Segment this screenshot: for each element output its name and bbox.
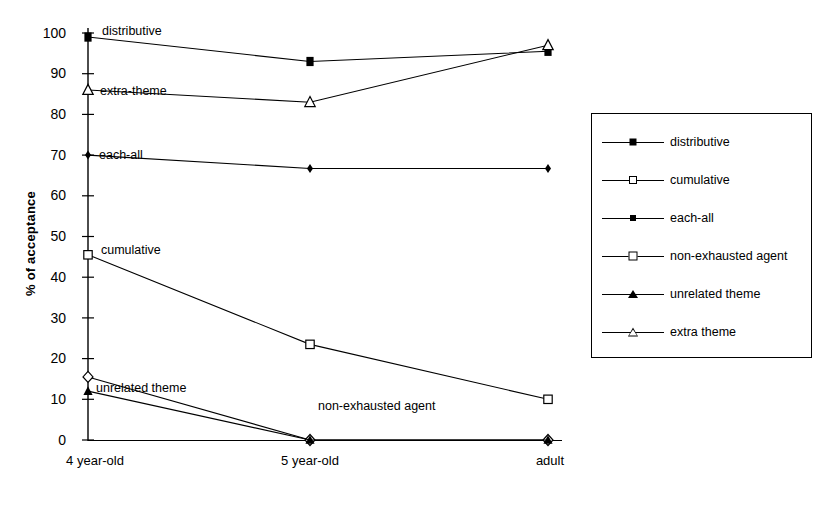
legend-item-extra-theme[interactable]: extra theme: [602, 321, 736, 343]
legend-marker-open-diamond-icon: [602, 248, 664, 264]
data-series-layer: [83, 32, 553, 445]
data-point-marker-open-square: [84, 251, 92, 259]
chart-legend: distributivecumulativeeach-allnon-exhaus…: [591, 113, 812, 358]
data-point-marker-filled-square: [306, 57, 313, 66]
legend-marker-filled-triangle-icon: [602, 286, 664, 302]
legend-label: non-exhausted agent: [670, 249, 787, 263]
legend-label: each-all: [670, 211, 714, 225]
series-extra-theme: [83, 40, 553, 107]
data-point-marker-filled-diamond: [307, 164, 313, 173]
chart-figure: % of acceptance 100 90 80 70 60 50 40 30…: [0, 0, 840, 510]
series-cumulative: [84, 251, 552, 404]
legend-label: extra theme: [670, 325, 736, 339]
legend-marker-open-square-icon: [602, 172, 664, 188]
legend-marker-open-triangle-icon: [602, 324, 664, 340]
legend-item-unrelated-theme[interactable]: unrelated theme: [602, 283, 760, 305]
legend-marker-filled-square-icon: [602, 134, 664, 150]
legend-marker-filled-diamond-icon: [602, 210, 664, 226]
series-non-exhausted-agent: [83, 371, 553, 445]
axis-lines: [88, 28, 562, 441]
legend-label: distributive: [670, 135, 730, 149]
legend-label: unrelated theme: [670, 287, 760, 301]
data-point-marker-open-triangle: [543, 40, 553, 50]
legend-item-each-all[interactable]: each-all: [602, 207, 714, 229]
data-point-marker-open-square: [306, 340, 314, 348]
data-point-marker-filled-diamond: [545, 164, 551, 173]
data-point-marker-filled-square: [84, 32, 91, 41]
legend-item-non-exhausted-agent[interactable]: non-exhausted agent: [602, 245, 787, 267]
data-point-marker-open-square: [544, 395, 552, 403]
data-point-marker-open-diamond: [83, 371, 93, 382]
legend-item-distributive[interactable]: distributive: [602, 131, 730, 153]
legend-item-cumulative[interactable]: cumulative: [602, 169, 730, 191]
legend-label: cumulative: [670, 173, 730, 187]
series-each-all: [85, 151, 551, 173]
series-unrelated-theme: [83, 386, 552, 443]
data-point-marker-filled-diamond: [85, 151, 91, 160]
data-point-marker-filled-triangle: [83, 386, 92, 395]
data-point-marker-open-triangle: [83, 84, 93, 94]
